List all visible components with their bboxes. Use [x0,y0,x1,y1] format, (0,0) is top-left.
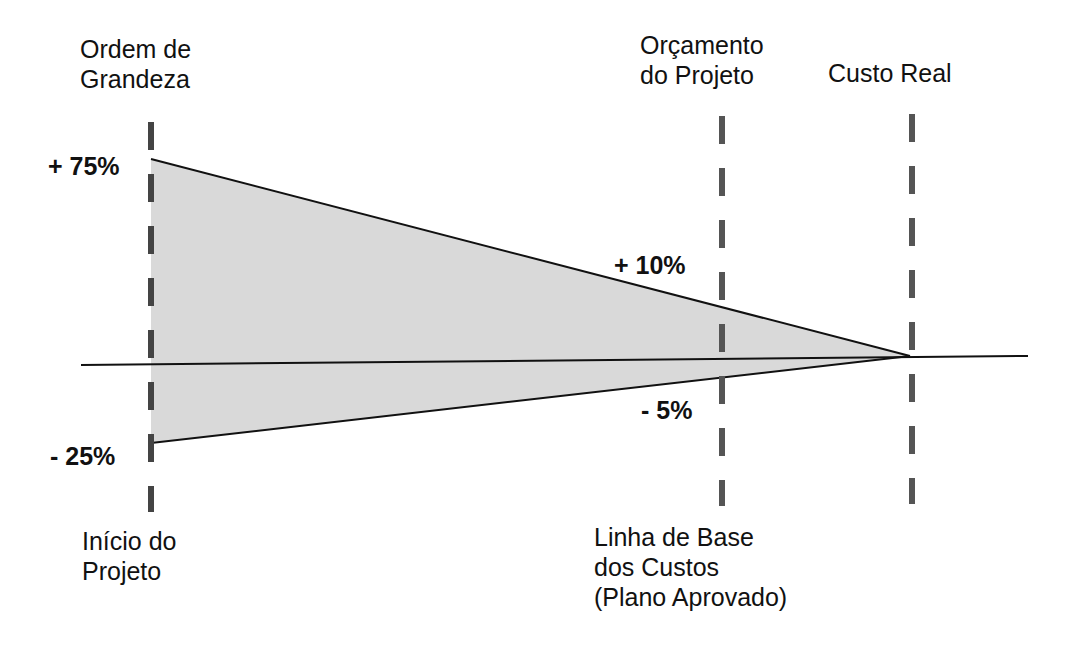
label-line: do Projeto [640,60,764,90]
label-line: (Plano Aprovado) [594,582,787,612]
label-inicio-do-projeto: Início do Projeto [82,526,177,586]
label-line: Grandeza [80,64,191,94]
label-line: Linha de Base [594,522,787,552]
label-line: dos Custos [594,552,787,582]
pct-start-lower: - 25% [50,442,115,471]
label-ordem-de-grandeza: Ordem de Grandeza [80,34,191,94]
label-linha-de-base: Linha de Base dos Custos (Plano Aprovado… [594,522,787,612]
pct-baseline-lower: - 5% [641,396,692,425]
label-line: Projeto [82,556,177,586]
pct-start-upper: + 75% [48,152,120,181]
label-custo-real: Custo Real [828,58,952,88]
label-line: Início do [82,526,177,556]
label-line: Orçamento [640,30,764,60]
label-line: Ordem de [80,34,191,64]
label-line: Custo Real [828,58,952,88]
pct-baseline-upper: + 10% [614,251,686,280]
label-orcamento-do-projeto: Orçamento do Projeto [640,30,764,90]
